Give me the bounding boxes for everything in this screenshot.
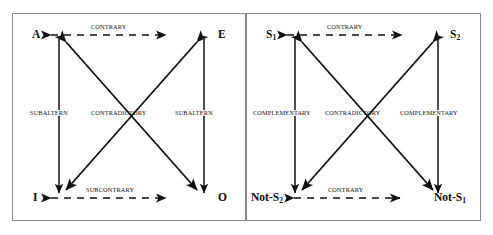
vertex-s2: S2 <box>450 29 460 41</box>
label-contradictory-right-diagram: CONTRADICTORY <box>325 110 380 116</box>
label-contrary-top-left-diagram: CONTRARY <box>90 24 128 30</box>
vertex-not-s2: Not-S2 <box>251 192 283 204</box>
label-subcontrary: SUBCONTRARY <box>85 187 135 193</box>
vertex-not-s1: Not-S1 <box>434 192 466 204</box>
vertex-e: E <box>218 29 226 41</box>
vertex-s2-subscript: 2 <box>456 33 460 42</box>
label-contrary-bottom-right-diagram: CONTRARY <box>327 187 365 193</box>
label-subaltern-right: SUBALTERN <box>174 110 214 116</box>
vertex-i: I <box>33 192 37 204</box>
label-subaltern-left: SUBALTERN <box>29 110 69 116</box>
vertex-not-s2-base: Not-S <box>251 191 279 203</box>
vertex-s1: S1 <box>266 29 276 41</box>
vertex-not-s2-subscript: 2 <box>279 196 283 205</box>
label-contradictory-left-diagram: CONTRADICTORY <box>91 110 146 116</box>
left-diagram-frame: A E I O CONTRARY SUBCONTRARY SUBALTERN S… <box>12 13 246 221</box>
right-diagram-frame: S1 S2 Not-S2 Not-S1 CONTRARY CONTRARY CO… <box>246 13 481 221</box>
label-complementary-right: COMPLEMENTARY <box>399 110 459 116</box>
vertex-not-s1-base: Not-S <box>434 191 462 203</box>
label-contrary-top-right-diagram: CONTRARY <box>326 24 364 30</box>
figure-canvas: A E I O CONTRARY SUBCONTRARY SUBALTERN S… <box>0 0 493 235</box>
label-complementary-left: COMPLEMENTARY <box>252 110 312 116</box>
vertex-s1-subscript: 1 <box>272 33 276 42</box>
vertex-a: A <box>32 29 40 41</box>
vertex-not-s1-subscript: 1 <box>462 196 466 205</box>
vertex-o: O <box>218 192 227 204</box>
